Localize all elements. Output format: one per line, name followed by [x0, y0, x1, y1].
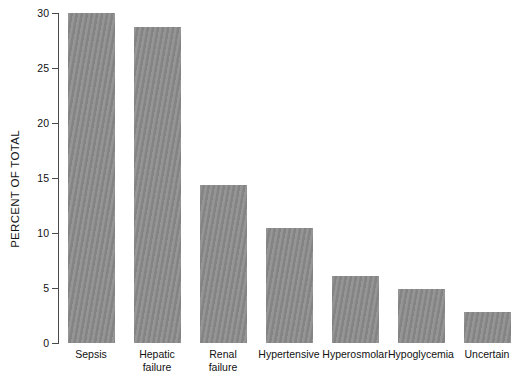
y-axis-title: PERCENT OF TOTAL — [0, 0, 30, 378]
y-tick-mark — [52, 178, 58, 179]
y-tick-label: 15 — [37, 172, 49, 184]
y-tick-mark — [52, 68, 58, 69]
x-axis-label-line: failure — [190, 361, 256, 374]
y-tick-mark — [52, 343, 58, 344]
x-axis-label: Hypertensive — [256, 348, 322, 361]
bar — [68, 13, 115, 343]
x-axis-label: Uncertain — [454, 348, 520, 361]
bar — [266, 228, 313, 344]
x-axis-label: Renalfailure — [190, 348, 256, 373]
x-axis-label: Hepaticfailure — [124, 348, 190, 373]
bar-chart: PERCENT OF TOTAL 051015202530 SepsisHepa… — [0, 0, 526, 378]
y-tick-mark — [52, 233, 58, 234]
bar — [332, 276, 379, 343]
x-axis-label-line: Hypoglycemia — [388, 348, 454, 361]
y-tick-mark — [52, 288, 58, 289]
x-axis-label-line: Sepsis — [58, 348, 124, 361]
bar — [398, 289, 445, 343]
x-axis-label: Hypoglycemia — [388, 348, 454, 361]
bar — [134, 27, 181, 343]
x-axis-label-line: Renal — [190, 348, 256, 361]
y-tick-label: 20 — [37, 117, 49, 129]
x-axis-label-line: Uncertain — [454, 348, 520, 361]
y-tick-label: 0 — [43, 337, 49, 349]
x-axis-label-line: Hypertensive — [256, 348, 322, 361]
x-axis-label-line: failure — [124, 361, 190, 374]
y-tick-mark — [52, 13, 58, 14]
y-tick-mark — [52, 123, 58, 124]
y-tick-label: 30 — [37, 7, 49, 19]
x-axis-label: Hyperosmolar — [322, 348, 388, 361]
y-tick-label: 10 — [37, 227, 49, 239]
y-tick-label: 5 — [43, 282, 49, 294]
y-axis-line — [58, 13, 59, 344]
plot-area: 051015202530 — [58, 13, 520, 343]
y-tick-label: 25 — [37, 62, 49, 74]
x-axis-label: Sepsis — [58, 348, 124, 361]
x-axis-label-line: Hyperosmolar — [322, 348, 388, 361]
bar — [200, 185, 247, 343]
bar — [464, 312, 511, 343]
x-axis-label-line: Hepatic — [124, 348, 190, 361]
